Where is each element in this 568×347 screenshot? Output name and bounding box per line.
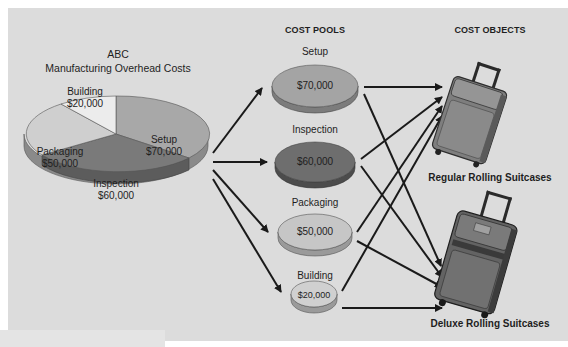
pool-inspection-value: $60,000 — [285, 156, 345, 168]
deluxe-suitcase-image — [432, 185, 526, 321]
pie-label-building-value: $20,000 — [60, 98, 110, 110]
pool-packaging-name: Packaging — [280, 197, 350, 209]
pool-inspection-name: Inspection — [280, 124, 350, 136]
pool-building-value: $20,000 — [289, 289, 339, 301]
pie-to-pool-arrows — [213, 88, 281, 292]
pie-label-packaging-name: Packaging — [30, 146, 90, 158]
pie-label-inspection-name: Inspection — [84, 178, 148, 190]
pie-label-setup-value: $70,000 — [134, 146, 194, 158]
cost-object-regular-label: Regular Rolling Suitcases — [420, 172, 560, 183]
regular-suitcase-image — [430, 56, 514, 169]
cost-pools-header: COST POOLS — [270, 25, 360, 35]
pie-label-inspection-value: $60,000 — [84, 190, 148, 202]
cost-objects-header: COST OBJECTS — [440, 25, 540, 35]
pool-setup-value: $70,000 — [285, 80, 345, 92]
chart-title-line2: Manufacturing Overhead Costs — [38, 62, 198, 74]
pool-building-name: Building — [285, 270, 345, 282]
cost-object-deluxe-label: Deluxe Rolling Suitcases — [420, 318, 560, 329]
pie-label-building-name: Building — [60, 86, 110, 98]
pie-label-setup-name: Setup — [134, 134, 194, 146]
pool-setup-name: Setup — [285, 46, 345, 58]
pool-packaging-value: $50,000 — [285, 226, 345, 238]
pie-label-packaging-value: $50,000 — [30, 158, 90, 170]
pool-to-object-arrows — [342, 87, 442, 308]
chart-title-line1: ABC — [58, 48, 178, 60]
